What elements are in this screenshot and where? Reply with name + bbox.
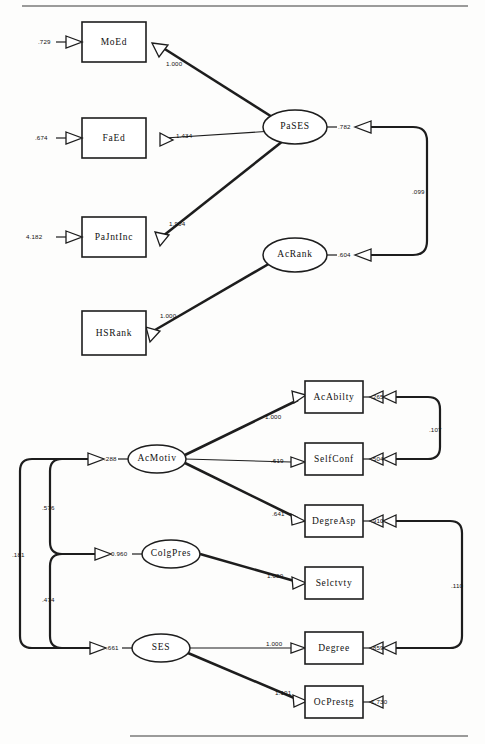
arrowhead-disturbance-pases [355, 121, 371, 133]
arrowhead-to-degreasp [291, 514, 305, 525]
loading-value-pases-moed: 1.000 [166, 60, 183, 67]
latent-label-ses: SES [152, 642, 170, 652]
loading-value-acmotiv-selfconf: .619 [271, 457, 284, 464]
observed-label-moed: MoEd [101, 37, 128, 47]
observed-label-degree: Degree [318, 643, 350, 653]
loading-value-acmotiv-degreasp: .641 [272, 510, 285, 517]
arrowhead-to-acability [292, 391, 306, 403]
observed-label-acability: AcAbilty [314, 392, 355, 402]
loading-acmotiv-acability-line [185, 400, 298, 455]
covariance-curve-acmotiv-colgpres [50, 459, 95, 554]
observed-label-degreasp: DegreAsp [312, 516, 356, 526]
diagram-canvas: MoEd FaEd PaJntInc HSRank PaSES AcRank .… [0, 0, 485, 744]
latent-label-acrank: AcRank [277, 249, 312, 259]
covariance-value-acmotiv-colgpres: .576 [42, 504, 55, 511]
disturbance-value-acrank: .604 [338, 251, 351, 258]
arrowhead-cov-selfconf [383, 453, 396, 465]
loading-value-colgpres-selctvty: 1.000 [267, 572, 284, 579]
arrowhead-to-degree [291, 643, 305, 653]
arrowhead-cov-acability [383, 391, 396, 403]
loading-value-acrank-hsrank: 1.000 [160, 312, 177, 319]
arrowhead-error-moed [66, 36, 82, 48]
error-value-degree: .859 [371, 644, 384, 651]
loading-pases-moed-line [160, 46, 288, 127]
observed-label-hsrank: HSRank [96, 328, 132, 338]
loading-acrank-hsrank-line [155, 262, 272, 330]
disturbance-value-ses: .661 [106, 644, 119, 651]
top-panel: MoEd FaEd PaJntInc HSRank PaSES AcRank .… [26, 22, 427, 355]
observed-label-ocprestg: OcPrestg [314, 697, 354, 707]
arrowhead-to-selctvty [292, 577, 306, 589]
arrowhead-disturbance-colgpres [95, 548, 111, 560]
error-value-pajntinc: 4.182 [26, 233, 43, 240]
error-value-faed: .674 [35, 134, 48, 141]
covariance-value-acmotiv-ses: .181 [12, 551, 25, 558]
loading-value-ses-ocprestg: 1.101 [275, 689, 292, 696]
error-value-moed: .729 [38, 38, 51, 45]
observed-label-faed: FaEd [103, 133, 126, 143]
covariance-value-acability-selfconf: .107 [429, 426, 442, 433]
arrowhead-error-pajntinc [66, 231, 82, 243]
arrowhead-cov-degreasp [383, 515, 396, 527]
arrowhead-disturbance-ses [90, 642, 106, 654]
covariance-value-degreasp-degree: .110 [451, 582, 464, 589]
covariance-curve-colgpres-ses [50, 554, 95, 648]
bottom-panel: AcAbilty SelfConf DegreAsp Selctvty Degr… [12, 381, 464, 718]
disturbance-value-colgpres: 0.960 [111, 550, 128, 557]
arrowhead-cov-degree [383, 642, 396, 654]
error-value-selfconf: .504 [371, 455, 384, 462]
observed-label-selfconf: SelfConf [314, 454, 354, 464]
disturbance-value-acmotiv: .288 [104, 455, 117, 462]
observed-label-selctvty: Selctvty [316, 578, 353, 588]
loading-value-pases-pajntinc: 1.904 [169, 220, 186, 227]
sem-path-diagram: MoEd FaEd PaJntInc HSRank PaSES AcRank .… [0, 0, 485, 744]
arrowhead-to-selfconf [291, 457, 305, 467]
loading-value-pases-faed: 1.434 [176, 132, 193, 139]
loading-value-ses-degree: 1.000 [266, 640, 283, 647]
observed-label-pajntinc: PaJntInc [95, 232, 133, 242]
loading-colgpres-selctvty-line [200, 554, 298, 582]
arrowhead-error-faed [66, 132, 82, 144]
error-value-degreasp: .910 [371, 517, 384, 524]
error-value-ocprestg: 1.730 [371, 698, 388, 705]
covariance-value-colgpres-ses: .474 [42, 596, 55, 603]
arrowhead-disturbance-acrank [355, 249, 371, 261]
loading-value-acmotiv-acability: 1.000 [265, 413, 282, 420]
disturbance-value-pases: .782 [338, 123, 351, 130]
arrowhead-to-pajntinc [155, 232, 169, 246]
latent-label-colgpres: ColgPres [151, 548, 191, 558]
arrowhead-to-faed [160, 133, 173, 146]
arrowhead-disturbance-acmotiv [88, 453, 104, 465]
error-value-acability: .265 [371, 393, 384, 400]
latent-label-acmotiv: AcMotiv [137, 453, 176, 463]
latent-label-pases: PaSES [280, 121, 309, 131]
covariance-value-pases-acrank: .099 [412, 188, 425, 195]
